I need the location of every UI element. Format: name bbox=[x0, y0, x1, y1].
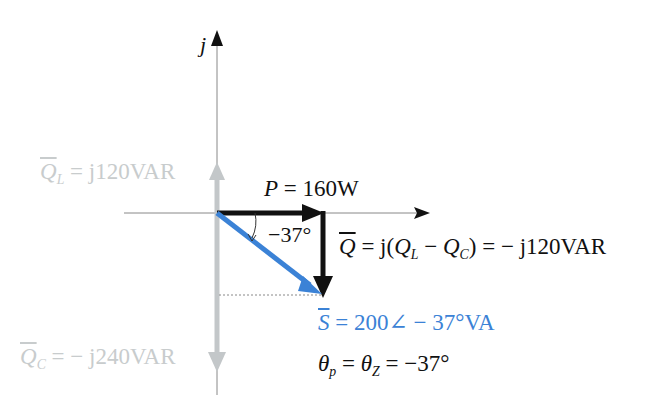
q-expr-close: ) = − bbox=[469, 234, 520, 259]
s-value: = 200∠ − 37°VA bbox=[330, 310, 495, 335]
theta-p-symbol: θ bbox=[318, 351, 329, 376]
theta-z-symbol: θ bbox=[361, 351, 372, 376]
qc-symbol: Q bbox=[20, 344, 37, 369]
qc-equals: = bbox=[46, 344, 70, 369]
s-label: S = 200∠ − 37°VA bbox=[318, 311, 495, 334]
p-symbol: P bbox=[264, 176, 278, 201]
qc-subscript: C bbox=[37, 357, 46, 372]
p-equals: = bbox=[278, 176, 302, 201]
ql-equals: = bbox=[64, 159, 88, 184]
q-qc-symbol: Q bbox=[443, 234, 460, 259]
q-expr-open: = j( bbox=[356, 234, 395, 259]
s-symbol: S bbox=[318, 310, 330, 335]
q-qc-subscript: C bbox=[460, 247, 469, 262]
ql-value: j120VAR bbox=[89, 159, 176, 184]
ql-label: QL = j120VAR bbox=[40, 160, 175, 187]
qc-label: QC = − j240VAR bbox=[20, 345, 176, 372]
ql-arrowhead-icon bbox=[209, 162, 225, 180]
q-ql-symbol: Q bbox=[394, 234, 411, 259]
ql-symbol: Q bbox=[40, 159, 57, 184]
angle-label: −37° bbox=[268, 224, 311, 246]
theta-equals-1: = bbox=[336, 351, 360, 376]
p-value: 160W bbox=[303, 176, 359, 201]
q-value: j120VAR bbox=[520, 234, 607, 259]
theta-value: = −37° bbox=[380, 351, 450, 376]
qc-arrowhead-icon bbox=[208, 352, 226, 372]
imag-axis-arrowhead-icon bbox=[211, 30, 223, 46]
qc-value: − j240VAR bbox=[70, 344, 175, 369]
q-label: Q = j(QL − QC) = − j120VAR bbox=[339, 235, 606, 262]
imag-axis-label: j bbox=[200, 34, 206, 56]
theta-label: θp = θZ = −37° bbox=[318, 352, 449, 379]
theta-z-subscript: Z bbox=[372, 364, 380, 379]
p-label: P = 160W bbox=[264, 177, 359, 200]
power-triangle-diagram: j QL = j120VAR QC = − j240VAR P = 160W −… bbox=[0, 0, 670, 412]
q-symbol: Q bbox=[339, 234, 356, 259]
angle-arc bbox=[252, 213, 256, 238]
q-minus: − bbox=[418, 234, 442, 259]
